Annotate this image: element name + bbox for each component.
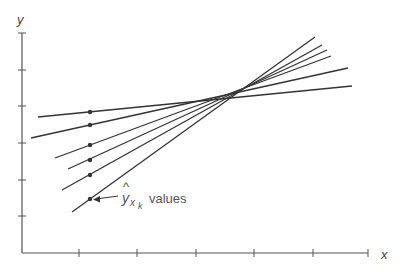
annotation: y ^ x k values [93, 179, 187, 211]
regression-line [72, 37, 315, 212]
arrowhead-icon [93, 196, 100, 203]
predicted-value-dot [88, 123, 92, 127]
predicted-value-dot [88, 197, 92, 201]
predicted-value-dot [88, 173, 92, 177]
predicted-value-dot [88, 158, 92, 162]
axes: y x [16, 12, 388, 262]
subscript-k: k [138, 201, 143, 211]
x-axis-label: x [380, 247, 388, 262]
hat-accent: ^ [123, 179, 130, 194]
regression-lines [31, 37, 352, 212]
y-axis-label: y [16, 12, 25, 27]
subscript-x: x [129, 197, 136, 208]
regression-line [55, 56, 331, 158]
predicted-value-dot [88, 110, 92, 114]
regression-line [68, 50, 327, 169]
regression-line [62, 45, 322, 190]
regression-lines-diagram: y x y ^ x k values [0, 0, 404, 274]
annotation-text: values [149, 191, 187, 206]
predicted-value-dot [88, 143, 92, 147]
